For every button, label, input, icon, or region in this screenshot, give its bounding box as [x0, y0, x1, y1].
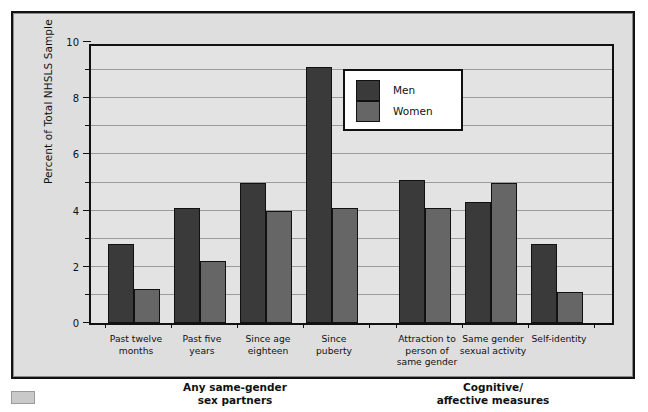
y-axis-tick — [83, 266, 91, 267]
bar-men-2 — [240, 183, 266, 324]
chart-figure: Percent of Total NHSLS Sample 0246810 Me… — [0, 0, 648, 412]
bar-women-3 — [332, 208, 358, 323]
y-axis-tick — [85, 125, 91, 126]
x-axis-tick — [237, 323, 238, 328]
y-axis-tick — [83, 97, 91, 98]
legend-label-men: Men — [393, 84, 415, 96]
x-axis-tick — [462, 323, 463, 328]
gridline — [91, 182, 612, 183]
legend-swatch-men — [356, 80, 380, 101]
y-axis-label: 2 — [73, 261, 79, 272]
x-axis-tick — [171, 323, 172, 328]
category-label-3: Since puberty — [294, 333, 374, 356]
y-axis-tick — [85, 238, 91, 239]
legend-swatch-women — [356, 101, 380, 122]
bar-men-5 — [465, 202, 491, 323]
y-axis-label: 6 — [73, 149, 79, 160]
y-axis-tick — [83, 153, 91, 154]
bar-men-1 — [174, 208, 200, 323]
x-axis-tick — [396, 323, 397, 328]
bar-women-5 — [491, 183, 517, 324]
x-axis-tick — [303, 323, 304, 328]
y-axis-label: 4 — [73, 205, 79, 216]
bar-women-2 — [266, 211, 292, 323]
y-axis-title: Percent of Total NHSLS Sample — [42, 19, 54, 184]
chart-legend: Men Women — [343, 69, 463, 131]
x-axis-tick — [594, 323, 595, 328]
y-axis-label: 8 — [73, 93, 79, 104]
group-label-0: Any same-gender sex partners — [83, 381, 387, 407]
bar-men-3 — [306, 67, 332, 323]
y-axis-tick — [85, 294, 91, 295]
y-axis-tick — [83, 210, 91, 211]
gridline — [91, 153, 612, 154]
y-axis-label: 10 — [66, 37, 79, 48]
corner-marker — [11, 391, 35, 404]
bar-men-0 — [108, 244, 134, 323]
x-axis-tick — [528, 323, 529, 328]
y-axis-tick — [83, 322, 91, 323]
legend-label-women: Women — [393, 105, 433, 117]
x-axis-tick — [105, 323, 106, 328]
bar-women-6 — [557, 292, 583, 323]
y-axis-tick — [85, 182, 91, 183]
category-label-6: Self-identity — [519, 333, 599, 345]
y-axis-label: 0 — [73, 318, 79, 329]
bar-women-4 — [425, 208, 451, 323]
group-label-1: Cognitive/ affective measures — [374, 381, 612, 407]
bar-men-6 — [531, 244, 557, 323]
bar-women-1 — [200, 261, 226, 323]
bar-women-0 — [134, 289, 160, 323]
figure-frame: Percent of Total NHSLS Sample 0246810 Me… — [11, 11, 635, 379]
bar-men-4 — [399, 180, 425, 323]
y-axis-tick — [83, 41, 91, 42]
y-axis-tick — [85, 69, 91, 70]
x-axis-tick — [369, 323, 370, 328]
